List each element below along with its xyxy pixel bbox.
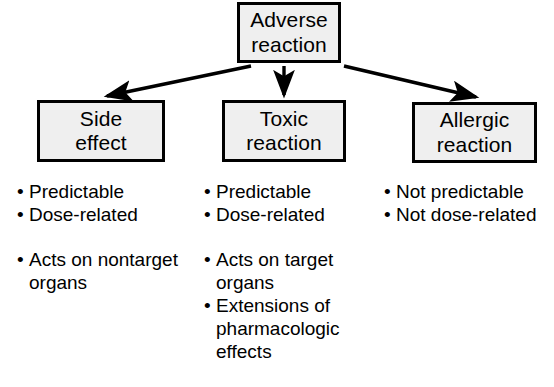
list-item-label: Predictable: [216, 181, 383, 204]
list-item-label: Acts on target organs: [216, 249, 383, 295]
list-item: • Dose-related: [203, 204, 383, 227]
bullet-list-side-effect: • Predictable • Dose-related • Acts on n…: [16, 181, 201, 295]
bullet-icon: •: [204, 204, 211, 227]
list-item: • Predictable: [16, 181, 201, 204]
list-item: • Not predictable: [383, 181, 553, 204]
diagonal-right-arrow: [344, 66, 476, 97]
bullet-list-allergic-reaction: • Not predictable • Not dose-related: [383, 181, 553, 227]
list-item-label: Predictable: [29, 181, 201, 204]
list-item: • Predictable: [203, 181, 383, 204]
list-item-label: Dose-related: [29, 204, 201, 227]
list-item-label: Dose-related: [216, 204, 383, 227]
list-item-label: Extensions of pharmacologic effects: [216, 295, 383, 364]
list-item: • Acts on nontarget organs: [16, 249, 201, 295]
node-adverse-reaction-line-2: reaction: [251, 33, 327, 57]
bullet-icon: •: [17, 249, 24, 272]
node-allergic-reaction-line-1: Allergic: [440, 108, 510, 132]
bullet-icon: •: [17, 204, 24, 227]
bullet-icon: •: [204, 181, 211, 204]
adverse-reaction-diagram: Adverse reaction Side effect Toxic react…: [0, 0, 554, 387]
node-allergic-reaction: Allergic reaction: [412, 102, 537, 163]
node-side-effect: Side effect: [37, 100, 165, 162]
list-item-label: Not dose-related: [396, 204, 553, 227]
node-toxic-reaction-line-1: Toxic: [260, 107, 308, 131]
node-adverse-reaction-line-1: Adverse: [250, 8, 328, 32]
bullet-list-toxic-reaction: • Predictable • Dose-related • Acts on t…: [203, 181, 383, 364]
bullet-icon: •: [384, 204, 391, 227]
list-item: • Acts on target organs: [203, 249, 383, 295]
node-side-effect-line-1: Side: [80, 107, 122, 131]
list-item: • Extensions of pharmacologic effects: [203, 295, 383, 364]
node-side-effect-line-2: effect: [75, 131, 127, 155]
node-toxic-reaction-line-2: reaction: [246, 131, 322, 155]
bullet-icon: •: [204, 295, 211, 318]
node-allergic-reaction-line-2: reaction: [437, 133, 513, 157]
node-adverse-reaction: Adverse reaction: [237, 2, 341, 63]
list-item: • Not dose-related: [383, 204, 553, 227]
list-item: • Dose-related: [16, 204, 201, 227]
bullet-icon: •: [17, 181, 24, 204]
node-toxic-reaction: Toxic reaction: [222, 100, 346, 162]
list-item-label: Acts on nontarget organs: [29, 249, 201, 295]
bullet-icon: •: [384, 181, 391, 204]
list-item-label: Not predictable: [396, 181, 553, 204]
bullet-icon: •: [204, 249, 211, 272]
diagonal-left-arrow: [107, 66, 251, 96]
